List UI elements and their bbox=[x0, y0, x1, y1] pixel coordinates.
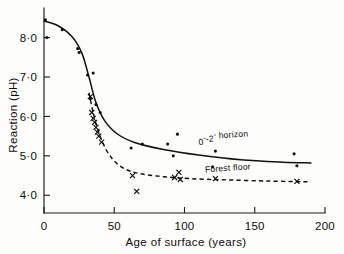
data-point-dot-0-18 bbox=[295, 164, 298, 167]
chart-svg: 4·05·06·07·08·0 050100150200 0"-2" horiz… bbox=[0, 0, 344, 254]
data-points-layer bbox=[44, 18, 300, 194]
data-point-dot-0-3 bbox=[76, 47, 79, 50]
data-point-dot-0-6 bbox=[92, 71, 95, 74]
axes-layer bbox=[44, 8, 325, 213]
x-tick-label-3: 150 bbox=[245, 220, 265, 232]
series-points-0 bbox=[44, 18, 299, 168]
data-point-cross-1-1 bbox=[89, 110, 94, 115]
x-tick-label-4: 200 bbox=[315, 220, 335, 232]
y-axis-tick-labels: 4·05·06·07·08·0 bbox=[20, 32, 37, 202]
y-tick-label-4: 8·0 bbox=[20, 32, 37, 44]
data-point-dot-0-17 bbox=[293, 152, 296, 155]
data-point-dot-0-9 bbox=[99, 111, 102, 114]
data-point-dot-0-0 bbox=[44, 18, 47, 21]
data-point-dot-0-10 bbox=[130, 146, 133, 149]
data-point-cross-1-11 bbox=[176, 170, 181, 175]
data-point-cross-1-8 bbox=[130, 173, 135, 178]
chart-figure: 4·05·06·07·08·0 050100150200 0"-2" horiz… bbox=[0, 0, 344, 254]
y-tick-label-0: 4·0 bbox=[20, 189, 37, 201]
data-point-dot-0-12 bbox=[166, 142, 169, 145]
x-tick-label-0: 0 bbox=[41, 220, 48, 232]
y-tick-label-2: 6·0 bbox=[20, 111, 37, 123]
data-point-dot-0-16 bbox=[214, 150, 217, 153]
y-tick-label-3: 7·0 bbox=[20, 71, 37, 83]
x-tick-label-1: 50 bbox=[108, 220, 121, 232]
data-point-dot-0-14 bbox=[176, 133, 179, 136]
data-point-dot-0-5 bbox=[86, 73, 89, 76]
x-axis-title: Age of surface (years) bbox=[126, 236, 247, 248]
x-axis-tick-labels: 050100150200 bbox=[41, 220, 335, 232]
series-annotation-1: Forest floor bbox=[205, 161, 251, 174]
series-curves-layer bbox=[44, 21, 311, 182]
series-annotation-0: 0"-2" horizon bbox=[198, 128, 249, 147]
data-point-cross-1-13 bbox=[213, 176, 218, 181]
series-curve-0 bbox=[44, 21, 311, 163]
x-tick-label-2: 100 bbox=[175, 220, 195, 232]
y-axis-title: Reaction (pH) bbox=[7, 77, 19, 153]
y-tick-label-1: 5·0 bbox=[20, 150, 37, 162]
series-annotations-layer: 0"-2" horizonForest floor bbox=[198, 128, 251, 174]
data-point-dot-0-13 bbox=[172, 154, 175, 157]
data-point-dot-0-1 bbox=[45, 36, 48, 39]
data-point-dot-0-4 bbox=[78, 51, 81, 54]
data-point-dot-0-2 bbox=[61, 28, 64, 31]
data-point-cross-1-7 bbox=[99, 140, 104, 145]
data-point-cross-1-9 bbox=[134, 189, 139, 194]
data-point-dot-0-11 bbox=[141, 142, 144, 145]
data-point-dot-0-8 bbox=[94, 103, 97, 106]
